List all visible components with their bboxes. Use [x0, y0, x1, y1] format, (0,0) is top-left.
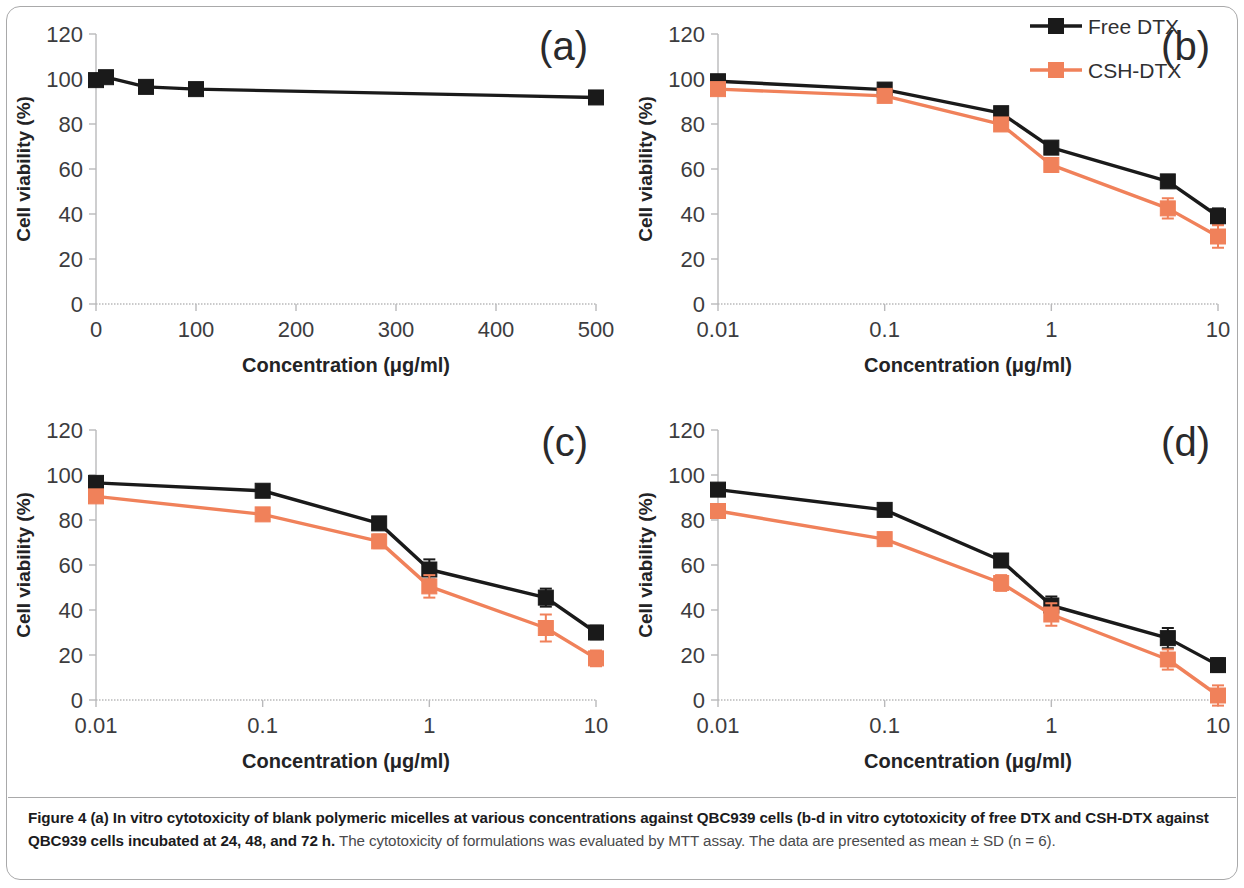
data-point-marker: [538, 621, 553, 636]
y-tick-label: 80: [681, 112, 705, 137]
data-point-marker: [589, 625, 604, 640]
y-tick-label: 60: [681, 157, 705, 182]
chart-panel-c: 0204060801001200.010.1110Concentration (…: [0, 400, 622, 796]
x-tick-label: 200: [278, 317, 315, 342]
y-tick-label: 20: [59, 643, 83, 668]
data-point-marker: [1211, 229, 1226, 244]
legend-label: Free DTX: [1088, 15, 1179, 38]
data-point-marker: [372, 534, 387, 549]
y-tick-label: 100: [668, 67, 705, 92]
data-point-marker: [877, 532, 892, 547]
panel-label-a: (a): [539, 24, 588, 68]
y-tick-label: 0: [693, 292, 705, 317]
caption-divider: [8, 797, 1236, 798]
data-point-marker: [1044, 157, 1059, 172]
x-tick-label: 1: [1045, 317, 1057, 342]
panel-grid: 0204060801001200100200300400500Concentra…: [0, 0, 1244, 795]
y-axis-label: Cell viability (%): [13, 492, 34, 638]
y-tick-label: 120: [668, 22, 705, 47]
x-tick-label: 300: [378, 317, 415, 342]
y-tick-label: 100: [46, 463, 83, 488]
figure-root: 0204060801001200100200300400500Concentra…: [0, 0, 1244, 888]
chart-svg-b: 0204060801001200.010.1110Concentration (…: [622, 4, 1244, 400]
y-tick-label: 0: [693, 688, 705, 713]
y-tick-label: 0: [71, 292, 83, 317]
chart-svg-d: 0204060801001200.010.1110Concentration (…: [622, 400, 1244, 796]
data-point-marker: [994, 576, 1009, 591]
y-tick-label: 100: [668, 463, 705, 488]
y-tick-label: 20: [681, 643, 705, 668]
data-point-marker: [422, 579, 437, 594]
data-point-marker: [255, 507, 270, 522]
y-tick-label: 40: [681, 202, 705, 227]
legend-marker: [1048, 62, 1064, 78]
y-tick-label: 80: [59, 112, 83, 137]
data-point-marker: [1211, 658, 1226, 673]
x-axis-label: Concentration (μg/ml): [242, 354, 450, 376]
data-point-marker: [1211, 688, 1226, 703]
y-axis-label: Cell viability (%): [635, 492, 656, 638]
y-tick-label: 80: [59, 508, 83, 533]
y-tick-label: 40: [681, 598, 705, 623]
data-point-marker: [139, 79, 154, 94]
chart-panel-b: 0204060801001200.010.1110Concentration (…: [622, 4, 1244, 400]
data-point-marker: [711, 504, 726, 519]
y-tick-label: 120: [668, 418, 705, 443]
y-tick-label: 20: [681, 247, 705, 272]
y-tick-label: 100: [46, 67, 83, 92]
data-point-marker: [1211, 209, 1226, 224]
axes-d: 0204060801001200.010.1110: [668, 418, 1230, 738]
data-point-marker: [1160, 174, 1175, 189]
series-line: [718, 490, 1218, 666]
data-point-marker: [711, 82, 726, 97]
axes-a: 0204060801001200100200300400500: [46, 22, 614, 342]
y-tick-label: 120: [46, 22, 83, 47]
panel-label-c: (c): [541, 420, 588, 464]
x-tick-label: 0.01: [75, 713, 118, 738]
y-tick-label: 60: [59, 157, 83, 182]
data-point-marker: [877, 502, 892, 517]
y-tick-label: 0: [71, 688, 83, 713]
y-axis-label: Cell viability (%): [13, 96, 34, 242]
series-line: [718, 511, 1218, 696]
data-point-marker: [189, 82, 204, 97]
data-point-marker: [589, 651, 604, 666]
data-point-marker: [877, 88, 892, 103]
x-tick-label: 0.01: [697, 713, 740, 738]
data-point-marker: [1044, 140, 1059, 155]
data-point-marker: [994, 117, 1009, 132]
data-point-marker: [89, 475, 104, 490]
series-line: [96, 496, 596, 658]
data-point-marker: [538, 590, 553, 605]
data-point-marker: [1160, 652, 1175, 667]
series-line: [96, 77, 596, 97]
chart-legend: Free DTXCSH-DTX: [1030, 15, 1181, 82]
x-tick-label: 0: [90, 317, 102, 342]
x-tick-label: 0.01: [697, 317, 740, 342]
x-axis-label: Concentration (μg/ml): [864, 354, 1072, 376]
x-axis-label: Concentration (μg/ml): [864, 750, 1072, 772]
x-tick-label: 0.1: [869, 713, 900, 738]
y-tick-label: 80: [681, 508, 705, 533]
x-tick-label: 0.1: [869, 317, 900, 342]
data-point-marker: [1160, 631, 1175, 646]
data-point-marker: [89, 489, 104, 504]
x-tick-label: 100: [178, 317, 215, 342]
data-point-marker: [994, 553, 1009, 568]
data-point-marker: [255, 483, 270, 498]
legend-marker: [1048, 18, 1064, 34]
data-point-marker: [1044, 607, 1059, 622]
legend-label: CSH-DTX: [1088, 59, 1181, 82]
x-tick-label: 1: [423, 713, 435, 738]
y-axis-label: Cell viability (%): [635, 96, 656, 242]
x-tick-label: 10: [1206, 317, 1230, 342]
data-point-marker: [589, 90, 604, 105]
series-free-dtx: [711, 482, 1226, 673]
y-tick-label: 40: [59, 598, 83, 623]
series-line: [718, 81, 1218, 216]
axes-c: 0204060801001200.010.1110: [46, 418, 608, 738]
chart-svg-a: 0204060801001200100200300400500Concentra…: [0, 4, 622, 400]
panel-label-d: (d): [1161, 420, 1210, 464]
x-tick-label: 10: [1206, 713, 1230, 738]
x-tick-label: 0.1: [247, 713, 278, 738]
